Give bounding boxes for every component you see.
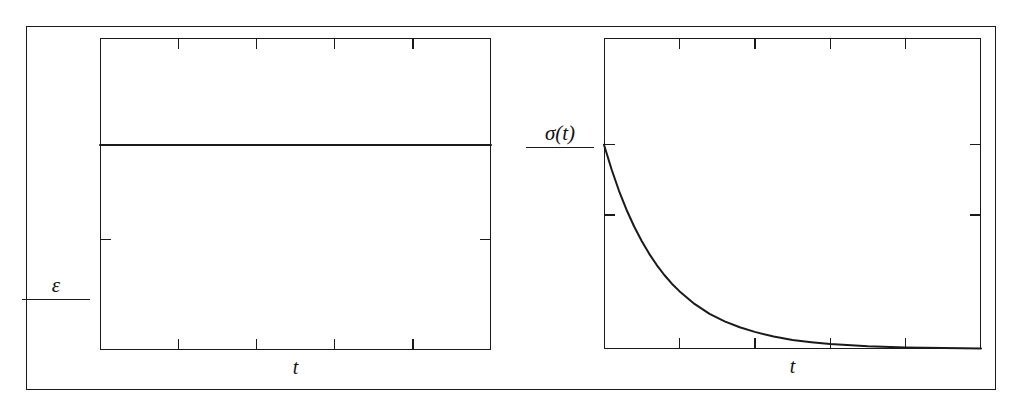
stress-plot-svg	[604, 38, 981, 349]
step-strain-panel: ε t	[0, 0, 511, 412]
strain-y-axis-label: ε	[22, 275, 90, 300]
stress-y-axis-label: σ(t)	[526, 123, 594, 148]
stress-relaxation-panel: σ(t) t	[511, 0, 1021, 412]
strain-x-axis-label: t	[256, 356, 336, 379]
strain-plot-svg	[100, 38, 491, 350]
data-curve	[604, 145, 981, 349]
stress-x-axis-label: t	[753, 355, 833, 378]
figure-canvas: ε t σ(t) t	[0, 0, 1021, 412]
